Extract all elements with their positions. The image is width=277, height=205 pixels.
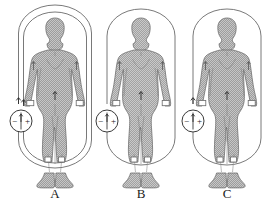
panel-label-a: A [50,186,60,201]
panel-c-right-wrist-cuff [248,101,255,106]
panel-a-minus-sign: − [12,116,17,126]
panel-c-plus-sign: + [197,116,202,126]
panel-b-plus-sign: + [111,116,116,126]
panel-c-wire-arrow [191,98,195,104]
panel-a-right-ankle-cuff [59,157,65,162]
panel-b-right-wrist-cuff [162,101,169,106]
panel-a: − + A [10,5,92,201]
panel-c-left-ankle-cuff [217,157,223,162]
panel-b: − + B [96,9,175,201]
panel-c-left-wrist-cuff [199,101,206,106]
panel-c-minus-sign: − [184,116,189,126]
panel-b-source-symbol: − + [96,110,118,132]
panel-c-source-symbol: − + [182,110,204,132]
panel-a-left-wrist-cuff [27,101,34,106]
panel-label-c: C [223,186,232,201]
current-path-figure: − + A − + B [0,0,277,205]
panel-b-right-ankle-cuff [145,157,151,162]
panel-a-left-ankle-cuff [45,157,51,162]
panel-label-b: B [137,186,146,201]
panel-b-minus-sign: − [98,116,103,126]
panel-b-left-wrist-cuff [113,101,120,106]
panel-a-source-symbol: − + [10,110,32,132]
panel-c: − + C [182,9,261,201]
panel-b-left-ankle-cuff [131,157,137,162]
panel-a-right-wrist-cuff [76,101,83,106]
panel-c-right-ankle-cuff [231,157,237,162]
panel-a-plus-sign: + [25,116,30,126]
figure-canvas: − + A − + B [0,0,277,205]
panel-a-current-arrow-1 [16,98,20,104]
